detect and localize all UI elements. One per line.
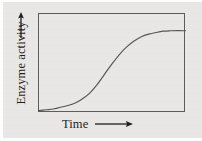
y-axis-group: Enzyme activity — [8, 10, 34, 116]
enzyme-activity-curve — [38, 13, 186, 113]
x-axis-label: Time — [62, 117, 88, 132]
right-arrow-icon — [95, 119, 133, 129]
x-axis-group: Time — [62, 114, 148, 134]
y-axis-label: Enzyme activity — [14, 27, 29, 105]
enzyme-activity-figure: Enzyme activity Time — [0, 0, 202, 141]
